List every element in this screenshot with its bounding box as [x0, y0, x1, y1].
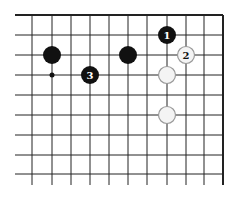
dot-marker: [50, 73, 55, 78]
go-board: 123: [0, 0, 232, 200]
black-stone: [119, 46, 137, 64]
white-stone: [159, 67, 176, 84]
black-stone: 1: [158, 26, 176, 44]
markers: [50, 73, 55, 78]
white-stone: [159, 107, 176, 124]
grid-lines: [15, 15, 223, 185]
move-number: 1: [164, 30, 171, 41]
move-number: 2: [183, 50, 190, 61]
black-stone: 3: [81, 66, 99, 84]
white-stone: 2: [178, 47, 195, 64]
move-number: 3: [87, 70, 94, 81]
black-stone: [43, 46, 61, 64]
